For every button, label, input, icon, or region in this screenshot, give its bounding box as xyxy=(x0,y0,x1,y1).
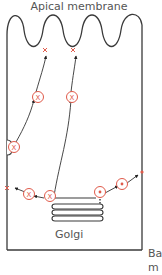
svg-text:X: X xyxy=(48,193,53,201)
golgi-stack xyxy=(52,198,103,221)
svg-text:X: X xyxy=(27,191,32,199)
sorting-markers xyxy=(9,92,128,202)
svg-text:X: X xyxy=(70,94,75,102)
svg-text:X: X xyxy=(12,144,17,152)
basolateral-membrane-label: Ba m xyxy=(148,247,162,275)
svg-text:X: X xyxy=(36,94,41,102)
golgi-label: Golgi xyxy=(55,228,83,241)
